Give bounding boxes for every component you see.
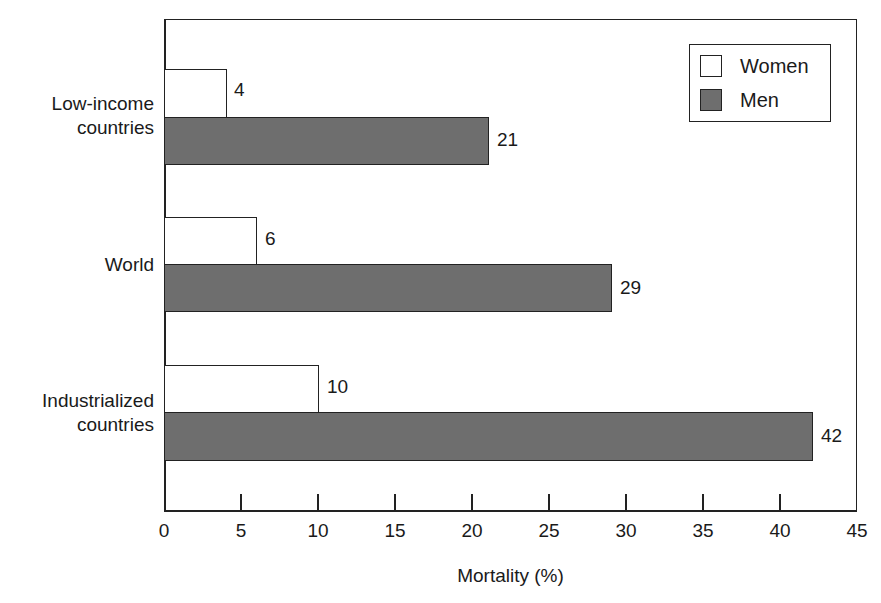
x-tick-label: 15 [375, 520, 415, 542]
bar-women-industrialized [164, 365, 319, 413]
bar-men-industrialized [164, 412, 813, 461]
x-tick [548, 494, 550, 512]
x-tick-label: 35 [683, 520, 723, 542]
x-tick-label: 25 [529, 520, 569, 542]
category-label-line: Low-income [52, 92, 154, 116]
category-label-low-income: Low-income countries [52, 92, 154, 140]
bar-women-low-income [164, 69, 227, 118]
x-tick [240, 494, 242, 512]
bar-men-world [164, 264, 612, 312]
value-men-low-income: 21 [497, 130, 518, 150]
x-tick-label: 5 [221, 520, 261, 542]
value-women-low-income: 4 [234, 80, 245, 100]
bar-men-low-income [164, 117, 489, 165]
category-label-line: World [105, 253, 154, 277]
x-tick-label: 10 [298, 520, 338, 542]
x-tick-label: 20 [452, 520, 492, 542]
value-men-world: 29 [620, 278, 641, 298]
x-tick-label: 45 [837, 520, 877, 542]
value-women-world: 6 [265, 229, 276, 249]
bar-women-world [164, 217, 257, 265]
category-label-line: countries [52, 116, 154, 140]
x-tick [702, 494, 704, 512]
category-label-line: countries [42, 413, 154, 437]
value-women-industrialized: 10 [327, 377, 348, 397]
x-axis-label: Mortality (%) [0, 565, 881, 587]
x-tick [317, 494, 319, 512]
x-tick [471, 494, 473, 512]
x-tick [625, 494, 627, 512]
x-tick-label: 30 [606, 520, 646, 542]
category-label-world: World [105, 253, 154, 277]
x-tick-label: 40 [760, 520, 800, 542]
x-tick-label: 0 [144, 520, 184, 542]
x-tick [394, 494, 396, 512]
legend-swatch-men [700, 89, 722, 111]
x-tick [779, 494, 781, 512]
category-label-line: Industrialized [42, 389, 154, 413]
legend-label-men: Men [740, 89, 779, 111]
legend: Women Men [689, 44, 831, 122]
category-label-industrialized: Industrialized countries [42, 389, 154, 437]
value-men-industrialized: 42 [821, 426, 842, 446]
legend-swatch-women [700, 55, 722, 77]
legend-label-women: Women [740, 55, 809, 77]
